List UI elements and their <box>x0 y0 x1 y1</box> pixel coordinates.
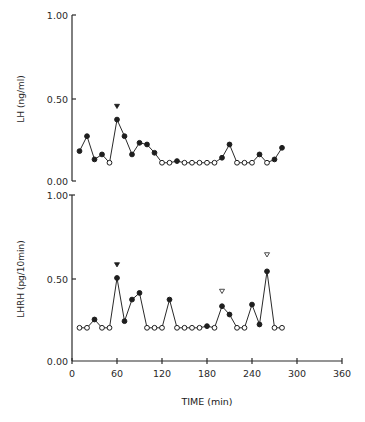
filled-triangle-marker-icon <box>115 104 120 108</box>
data-point-open <box>235 325 240 330</box>
x-tick-label: 180 <box>198 368 216 379</box>
top-ytick-label: 1.00 <box>47 10 68 21</box>
series-line <box>80 120 283 163</box>
x-tick-label: 360 <box>333 368 351 379</box>
data-point-filled <box>257 152 262 157</box>
lh-lhrh-time-series-chart: 1.00 0.50 0.00 LH (ng/ml) 1.00 0.50 0.00… <box>0 0 365 422</box>
open-triangle-marker-icon <box>265 253 270 257</box>
bottom-ytick-label: 0.50 <box>47 274 68 285</box>
bottom-panel: 1.00 0.50 0.00 LHRH (pg/10min) 060120180… <box>16 190 351 407</box>
data-point-filled <box>272 157 277 162</box>
data-point-open <box>235 160 240 165</box>
data-point-open <box>212 160 217 165</box>
data-point-open <box>85 325 90 330</box>
data-point-filled <box>100 152 105 157</box>
data-point-filled <box>152 150 157 155</box>
bottom-y-axis-title: LHRH (pg/10min) <box>16 240 26 318</box>
data-point-filled <box>122 319 127 324</box>
data-point-open <box>107 325 112 330</box>
data-point-filled <box>137 291 142 296</box>
data-point-filled <box>250 302 255 307</box>
data-point-open <box>100 325 105 330</box>
data-point-open <box>212 325 217 330</box>
data-point-filled <box>77 149 82 154</box>
lh-series <box>77 104 284 165</box>
data-point-filled <box>122 134 127 139</box>
x-tick-label: 0 <box>69 368 75 379</box>
lhrh-series <box>77 253 284 330</box>
data-point-filled <box>175 159 180 164</box>
data-point-open <box>242 325 247 330</box>
data-point-open <box>152 325 157 330</box>
data-point-filled <box>92 317 97 322</box>
data-point-filled <box>220 155 225 160</box>
data-point-open <box>160 325 165 330</box>
data-point-filled <box>257 322 262 327</box>
data-point-filled <box>220 304 225 309</box>
data-point-filled <box>92 157 97 162</box>
data-point-filled <box>115 276 120 281</box>
data-point-open <box>182 325 187 330</box>
x-tick-label: 300 <box>288 368 306 379</box>
x-axis-title: TIME (min) <box>180 396 232 407</box>
data-point-open <box>265 160 270 165</box>
filled-triangle-marker-icon <box>115 263 120 267</box>
bottom-ytick-label: 1.00 <box>47 190 68 201</box>
top-ytick-label: 0.50 <box>47 94 68 105</box>
data-point-open <box>205 160 210 165</box>
data-point-open <box>242 160 247 165</box>
x-tick-label: 120 <box>153 368 171 379</box>
x-tick-label: 60 <box>111 368 123 379</box>
open-triangle-marker-icon <box>220 289 225 293</box>
data-point-open <box>190 160 195 165</box>
data-point-open <box>197 325 202 330</box>
data-point-filled <box>227 142 232 147</box>
x-tick-label: 240 <box>243 368 261 379</box>
series-line <box>80 271 283 327</box>
top-ytick-label: 0.00 <box>47 176 68 187</box>
data-point-open <box>280 325 285 330</box>
data-point-open <box>182 160 187 165</box>
data-point-open <box>77 325 82 330</box>
top-panel: 1.00 0.50 0.00 LH (ng/ml) <box>16 10 284 187</box>
data-point-open <box>250 160 255 165</box>
data-point-open <box>167 160 172 165</box>
data-point-open <box>107 160 112 165</box>
data-point-filled <box>280 145 285 150</box>
data-point-filled <box>115 117 120 122</box>
data-point-open <box>175 325 180 330</box>
data-point-filled <box>85 134 90 139</box>
data-point-open <box>272 325 277 330</box>
data-point-filled <box>130 297 135 302</box>
data-point-filled <box>227 312 232 317</box>
data-point-filled <box>265 269 270 274</box>
bottom-ytick-label: 0.00 <box>47 356 68 367</box>
data-point-open <box>190 325 195 330</box>
data-point-filled <box>145 142 150 147</box>
data-point-filled <box>167 297 172 302</box>
data-point-filled <box>137 140 142 145</box>
data-point-open <box>197 160 202 165</box>
data-point-open <box>145 325 150 330</box>
data-point-open <box>160 160 165 165</box>
data-point-filled <box>130 152 135 157</box>
top-y-axis-title: LH (ng/ml) <box>16 75 26 122</box>
data-point-filled <box>205 324 210 329</box>
